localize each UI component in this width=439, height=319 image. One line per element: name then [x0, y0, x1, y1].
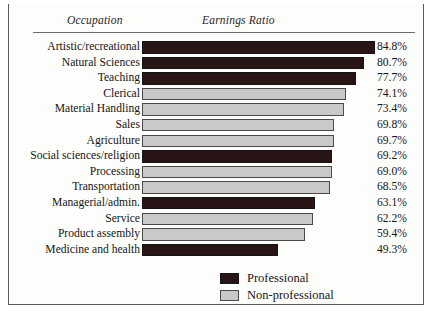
value-label: 69.7%	[377, 134, 407, 148]
chart-row: Artistic/recreational84.8%	[9, 40, 423, 56]
bar-track	[142, 88, 346, 101]
chart-row: Social sciences/religion69.2%	[9, 149, 423, 165]
chart-row: Teaching77.7%	[9, 71, 423, 87]
category-label: Natural Sciences	[62, 56, 140, 70]
bar-nonprofessional	[142, 135, 334, 148]
column-header-earnings-ratio: Earnings Ratio	[202, 14, 275, 26]
category-label: Managerial/admin.	[52, 196, 140, 210]
bar-nonprofessional	[142, 103, 344, 116]
chart-row: Service62.2%	[9, 212, 423, 228]
value-label: 68.5%	[377, 180, 407, 194]
category-label: Sales	[116, 118, 140, 132]
bar-nonprofessional	[142, 88, 346, 101]
category-label: Clerical	[103, 87, 140, 101]
bar-track	[142, 166, 332, 179]
bar-track	[142, 72, 356, 85]
chart-row: Managerial/admin.63.1%	[9, 196, 423, 212]
legend-label-nonprofessional: Non-professional	[247, 288, 334, 303]
bar-track	[142, 119, 334, 132]
category-label: Transportation	[72, 180, 140, 194]
value-label: 73.4%	[377, 102, 407, 116]
value-label: 80.7%	[377, 56, 407, 70]
bar-track	[142, 197, 315, 210]
bar-track	[142, 103, 344, 116]
bar-track	[142, 213, 313, 226]
value-label: 63.1%	[377, 196, 407, 210]
category-label: Social sciences/religion	[30, 149, 140, 163]
column-header-occupation: Occupation	[67, 14, 123, 26]
value-label: 77.7%	[377, 71, 407, 85]
value-label: 84.8%	[377, 40, 407, 54]
value-label: 49.3%	[377, 243, 407, 257]
value-label: 69.2%	[377, 149, 407, 163]
category-label: Material Handling	[55, 102, 140, 116]
chart-row: Natural Sciences80.7%	[9, 56, 423, 72]
bar-nonprofessional	[142, 181, 330, 194]
chart-legend: Professional Non-professional	[220, 270, 334, 304]
chart-row: Sales69.8%	[9, 118, 423, 134]
value-label: 69.8%	[377, 118, 407, 132]
chart-row: Clerical74.1%	[9, 87, 423, 103]
bar-professional	[142, 150, 332, 163]
category-label: Medicine and health	[45, 243, 140, 257]
legend-item-nonprofessional: Non-professional	[220, 287, 334, 304]
category-label: Teaching	[98, 71, 140, 85]
bar-professional	[142, 57, 364, 70]
bar-professional	[142, 41, 375, 54]
bar-nonprofessional	[142, 119, 334, 132]
legend-label-professional: Professional	[247, 271, 309, 286]
legend-item-professional: Professional	[220, 270, 334, 287]
bar-track	[142, 41, 375, 54]
chart-row: Processing69.0%	[9, 165, 423, 181]
table-header: Occupation Earnings Ratio	[9, 14, 423, 38]
bar-chart-plot: Artistic/recreational84.8%Natural Scienc…	[9, 40, 423, 258]
chart-row: Product assembly59.4%	[9, 227, 423, 243]
bar-professional	[142, 197, 315, 210]
bar-track	[142, 228, 305, 241]
bar-nonprofessional	[142, 228, 305, 241]
category-label: Artistic/recreational	[47, 40, 140, 54]
chart-frame: Occupation Earnings Ratio Artistic/recre…	[8, 4, 424, 305]
bar-track	[142, 244, 278, 257]
chart-row: Agriculture69.7%	[9, 134, 423, 150]
bar-track	[142, 57, 364, 70]
value-label: 62.2%	[377, 212, 407, 226]
value-label: 69.0%	[377, 165, 407, 179]
chart-row: Transportation68.5%	[9, 180, 423, 196]
bar-nonprofessional	[142, 213, 313, 226]
category-label: Processing	[90, 165, 140, 179]
bar-track	[142, 135, 334, 148]
value-label: 59.4%	[377, 227, 407, 241]
category-label: Product assembly	[58, 227, 140, 241]
chart-row: Medicine and health49.3%	[9, 243, 423, 259]
bar-track	[142, 150, 332, 163]
bar-professional	[142, 244, 278, 257]
bar-track	[142, 181, 330, 194]
header-divider	[33, 32, 415, 33]
legend-swatch-nonprofessional-icon	[220, 290, 239, 301]
value-label: 74.1%	[377, 87, 407, 101]
chart-row: Material Handling73.4%	[9, 102, 423, 118]
bar-nonprofessional	[142, 166, 332, 179]
category-label: Agriculture	[87, 134, 140, 148]
bar-professional	[142, 72, 356, 85]
category-label: Service	[105, 212, 140, 226]
legend-swatch-professional-icon	[220, 273, 239, 284]
